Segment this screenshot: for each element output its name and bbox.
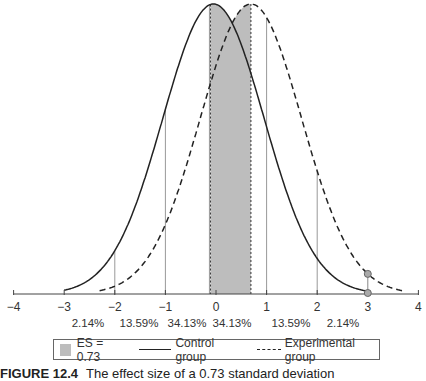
legend-label-es: ES = 0.73: [77, 336, 125, 364]
legend-label-experimental: Experimental group: [285, 336, 379, 364]
axis-tick-label: −3: [57, 300, 71, 314]
axis-tick-label: 4: [415, 300, 422, 314]
area-percent-label: 13.59%: [119, 317, 158, 329]
effect-size-chart: −4−3−2−101234 2.14%13.59%34.13%34.13%13.…: [0, 0, 426, 340]
figure-number: FIGURE 12.4: [0, 366, 78, 381]
effect-size-shaded-region: [210, 4, 251, 294]
area-percent-label: 13.59%: [271, 317, 310, 329]
caption-text: The effect size of a 0.73 standard devia…: [86, 366, 334, 381]
experimental-group-curve: [100, 4, 404, 291]
legend: ES = 0.73 Control group Experimental gro…: [53, 339, 380, 360]
marker-point: [364, 270, 371, 277]
marker-points: [364, 270, 371, 296]
area-percent-label: 34.13%: [212, 317, 251, 329]
legend-dashed-line-icon: [257, 349, 281, 350]
axis-tick-label: 3: [364, 300, 371, 314]
legend-swatch-es: [60, 344, 71, 356]
axis-tick-label: −2: [108, 300, 122, 314]
area-percent-label: 2.14%: [72, 317, 105, 329]
legend-solid-line-icon: [139, 349, 172, 350]
area-percent-label: 2.14%: [327, 317, 360, 329]
axis-tick-label: −4: [7, 300, 21, 314]
axis-tick-label: 1: [263, 300, 270, 314]
shaded-area: [210, 4, 251, 294]
axis-tick-label: 2: [314, 300, 321, 314]
figure-caption: FIGURE 12.4The effect size of a 0.73 sta…: [0, 366, 334, 381]
axis-tick-label: 0: [213, 300, 220, 314]
area-percent-label: 34.13%: [167, 317, 206, 329]
area-percent-labels: 2.14%13.59%34.13%34.13%13.59%2.14%: [72, 317, 360, 329]
axis-tick-label: −1: [159, 300, 173, 314]
x-axis: −4−3−2−101234: [7, 290, 422, 314]
marker-point: [364, 290, 371, 297]
legend-label-control: Control group: [175, 336, 241, 364]
